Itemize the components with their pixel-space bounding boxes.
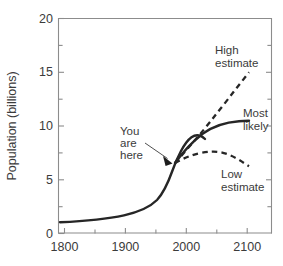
low-estimate-label-line2: estimate	[221, 181, 264, 193]
y-axis-title: Population (billions)	[5, 71, 19, 180]
series-low-estimate-curve	[175, 152, 249, 167]
y-tick-label-0: 0	[46, 227, 53, 241]
chart-canvas: 20 15 10 5 0 1800 1900 2000 2100 Populat…	[0, 0, 283, 266]
y-tick-label-15: 15	[39, 65, 53, 79]
you-are-here-line2: are	[120, 137, 137, 149]
y-tick-label-5: 5	[46, 173, 53, 187]
y-tick-label-10: 10	[39, 119, 53, 133]
x-tick-labels: 1800 1900 2000 2100	[51, 240, 262, 254]
most-likely-label-line2: likely	[243, 120, 269, 132]
low-estimate-label-line1: Low	[221, 168, 243, 180]
you-are-here-annotation: You are here	[120, 125, 173, 166]
plot-frame	[58, 18, 272, 234]
population-projection-chart: 20 15 10 5 0 1800 1900 2000 2100 Populat…	[0, 0, 283, 266]
x-tick-label-2100: 2100	[233, 240, 261, 254]
high-estimate-label-line1: High	[215, 44, 239, 56]
x-tick-label-1800: 1800	[51, 240, 79, 254]
you-are-here-line3: here	[120, 149, 143, 161]
y-axis-ticks	[59, 19, 65, 234]
low-estimate-label: Low estimate	[221, 168, 264, 193]
y-tick-label-20: 20	[39, 12, 53, 26]
x-tick-label-1900: 1900	[111, 240, 139, 254]
you-are-here-line1: You	[120, 125, 139, 137]
x-tick-label-2000: 2000	[172, 240, 200, 254]
you-are-here-leader-line	[145, 143, 168, 159]
most-likely-label-line1: Most	[243, 107, 269, 119]
you-are-here-arrowhead-icon	[163, 156, 173, 166]
high-estimate-label-line2: estimate	[215, 57, 258, 69]
most-likely-label: Most likely	[243, 107, 269, 132]
y-tick-labels: 20 15 10 5 0	[39, 12, 53, 241]
high-estimate-label: High estimate	[215, 44, 258, 69]
